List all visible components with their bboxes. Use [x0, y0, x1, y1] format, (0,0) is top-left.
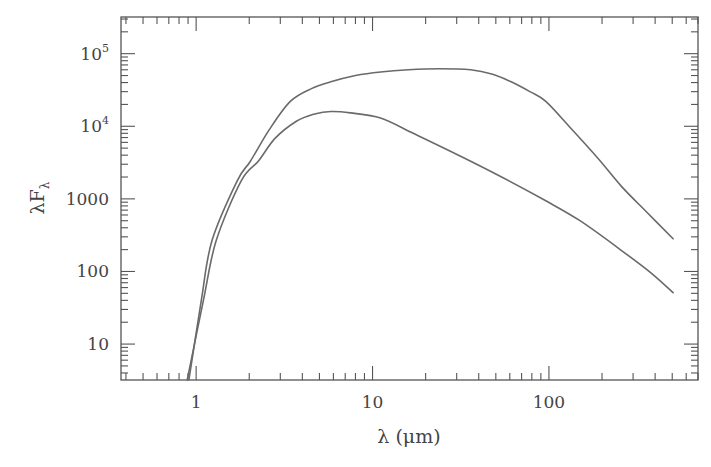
y-tick-label: 105: [80, 42, 109, 64]
axis-ticks: [121, 17, 698, 380]
y-tick-label: 10: [87, 334, 109, 354]
sed-chart: 110100 101001000104105 λ (μm) λFλ: [0, 0, 711, 467]
y-tick-label: 104: [80, 114, 109, 136]
upper-curve: [189, 69, 673, 380]
x-axis-label: λ (μm): [377, 425, 440, 447]
data-curves: [187, 69, 673, 380]
x-tick-labels: 110100: [191, 392, 565, 412]
x-tick-label: 100: [533, 392, 565, 412]
y-tick-labels: 101001000104105: [66, 42, 109, 354]
plot-frame: [121, 17, 698, 380]
svg-text:λFλ: λFλ: [26, 181, 52, 214]
lower-curve: [187, 111, 673, 380]
y-axis-label: λFλ: [26, 181, 52, 214]
x-tick-label: 1: [191, 392, 202, 412]
x-tick-label: 10: [362, 392, 384, 412]
y-tick-label: 100: [77, 261, 109, 281]
y-tick-label: 1000: [66, 189, 109, 209]
